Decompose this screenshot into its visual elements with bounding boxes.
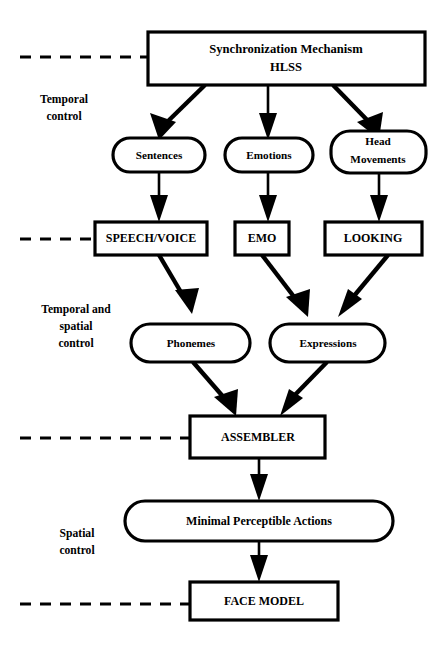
edge-root-to-emotions	[259, 85, 277, 140]
node-head-movements-line1: Head	[365, 135, 391, 147]
node-phonemes-label: Phonemes	[167, 337, 216, 349]
node-sentences-label: Sentences	[136, 149, 183, 161]
node-synchronization-mechanism-line2: HLSS	[270, 60, 302, 74]
side-label-temporal-control: Temporal control	[40, 93, 89, 123]
node-synchronization-mechanism-line1: Synchronization Mechanism	[209, 42, 363, 56]
node-looking[interactable]: LOOKING	[325, 222, 422, 255]
side-label-spatial-control: Spatial control	[59, 527, 95, 557]
flowchart-svg: Synchronization Mechanism HLSS Sentences…	[0, 0, 444, 657]
diagram-canvas: Synchronization Mechanism HLSS Sentences…	[0, 0, 444, 657]
node-speech-voice[interactable]: SPEECH/VOICE	[95, 222, 207, 255]
node-minimal-perceptible-actions-label: Minimal Perceptible Actions	[186, 514, 332, 528]
edge-assembler-to-minimal-perceptible-actions	[250, 458, 268, 501]
edge-sentences-to-speech-voice	[150, 172, 168, 222]
side-label-temporal-spatial-line3: control	[58, 337, 94, 350]
node-expressions[interactable]: Expressions	[270, 324, 385, 362]
node-emotions[interactable]: Emotions	[225, 138, 313, 172]
node-emo[interactable]: EMO	[235, 222, 289, 255]
edge-head-movements-to-looking	[370, 172, 388, 222]
edge-emotions-to-emo	[259, 172, 277, 222]
node-sentences[interactable]: Sentences	[113, 138, 205, 172]
node-emotions-label: Emotions	[246, 149, 292, 161]
node-assembler[interactable]: ASSEMBLER	[190, 416, 325, 458]
side-label-temporal-spatial-line2: spatial	[60, 320, 94, 333]
node-face-model[interactable]: FACE MODEL	[190, 582, 338, 620]
node-head-movements[interactable]: Head Movements	[331, 131, 426, 173]
side-label-temporal-spatial-line1: Temporal and	[41, 303, 111, 316]
side-label-spatial-line2: control	[59, 544, 95, 557]
node-face-model-label: FACE MODEL	[224, 594, 304, 608]
edge-emo-to-expressions	[262, 255, 310, 317]
edge-expressions-to-assembler	[280, 362, 327, 416]
side-label-spatial-line1: Spatial	[60, 527, 96, 540]
node-expressions-label: Expressions	[300, 337, 358, 349]
edge-phonemes-to-assembler	[193, 362, 238, 416]
node-emo-label: EMO	[248, 231, 277, 245]
node-phonemes[interactable]: Phonemes	[131, 324, 250, 362]
node-assembler-label: ASSEMBLER	[221, 430, 295, 444]
edge-speech-voice-to-phonemes	[159, 255, 199, 314]
side-label-temporal-and-spatial-control: Temporal and spatial control	[41, 303, 111, 350]
edge-looking-to-expressions	[338, 255, 388, 317]
node-minimal-perceptible-actions[interactable]: Minimal Perceptible Actions	[125, 501, 393, 541]
side-label-temporal-line1: Temporal	[40, 93, 89, 106]
node-synchronization-mechanism-shape	[148, 32, 425, 85]
side-label-temporal-line2: control	[46, 110, 82, 123]
node-head-movements-line2: Movements	[350, 153, 406, 165]
node-looking-label: LOOKING	[344, 231, 403, 245]
edge-root-to-sentences	[150, 85, 205, 140]
edge-minimal-perceptible-actions-to-face-model	[250, 540, 268, 582]
node-speech-voice-label: SPEECH/VOICE	[106, 231, 196, 245]
node-synchronization-mechanism[interactable]: Synchronization Mechanism HLSS	[148, 32, 425, 85]
